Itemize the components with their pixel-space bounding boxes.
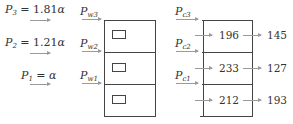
right-box-top-edge [202, 20, 253, 21]
arrow-pc3 [176, 19, 198, 20]
left-box-right-edge [155, 20, 156, 117]
right-box-bottom-edge [200, 116, 253, 117]
arrow-into-cell-2 [195, 68, 212, 69]
left-box-left-edge [104, 20, 105, 117]
cell-window-3 [112, 30, 126, 39]
p2-alpha: α [58, 36, 65, 49]
arrow-out-cell-1 [243, 100, 261, 101]
p3-value: = 1.81 [17, 3, 58, 16]
arrow-out-cell-3 [243, 35, 261, 36]
arrow-into-cell-3 [195, 35, 212, 36]
arrow-p1 [30, 84, 50, 85]
arrow-pw2 [82, 51, 101, 52]
left-box-top-edge [104, 20, 156, 21]
cell-value-3: 196 [219, 29, 239, 41]
p1-value: = [33, 69, 49, 82]
pw2-subscript: w2 [87, 43, 97, 51]
arrow-out-cell-2 [243, 68, 261, 69]
cell-value-1: 212 [219, 94, 239, 106]
pressure-label-p3: P3 = 1.81α [5, 4, 65, 19]
cell-window-1 [112, 95, 126, 104]
pressure-label-p2: P2 = 1.21α [5, 37, 65, 52]
left-box-divider-2 [104, 84, 156, 85]
pressure-label-p1: P1 = α [21, 70, 57, 85]
arrow-p2 [30, 53, 50, 54]
left-box-bottom-edge [104, 116, 156, 117]
p3-alpha: α [58, 3, 65, 16]
arrow-pc2 [176, 51, 198, 52]
cell-window-2 [112, 63, 126, 72]
pc1-subscript: c1 [182, 75, 190, 83]
right-box-divider-2 [202, 84, 253, 85]
left-box-divider-1 [104, 52, 156, 53]
arrow-pw3 [82, 19, 101, 20]
output-value-2: 127 [267, 62, 287, 74]
left-column-box [104, 20, 156, 117]
cell-value-2: 233 [219, 62, 239, 74]
arrow-p3 [30, 20, 50, 21]
output-value-3: 145 [267, 29, 287, 41]
p1-alpha: α [49, 69, 56, 82]
right-box-divider-1 [202, 52, 253, 53]
arrow-into-cell-1 [195, 100, 212, 101]
output-value-1: 193 [267, 94, 287, 106]
arrow-pw1 [82, 83, 101, 84]
pc2-subscript: c2 [182, 43, 190, 51]
pw3-subscript: w3 [87, 11, 97, 19]
pc3-subscript: c3 [182, 11, 190, 19]
arrow-pc1 [176, 83, 198, 84]
pw1-subscript: w1 [87, 75, 97, 83]
p2-value: = 1.21 [17, 36, 58, 49]
